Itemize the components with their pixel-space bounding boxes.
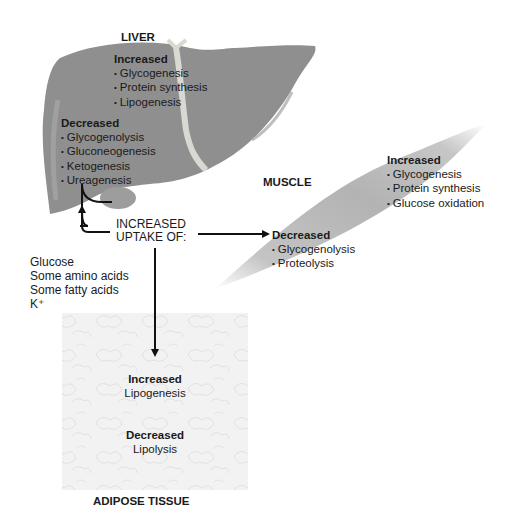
substance-item: Some fatty acids bbox=[30, 283, 129, 297]
liver-increased-list: Glycogenesis Protein synthesis Lipogenes… bbox=[114, 67, 207, 111]
list-item: Glucose oxidation bbox=[387, 197, 484, 212]
liver-decreased-group: Decreased Glycogenolysis Gluconeogenesis… bbox=[61, 117, 156, 189]
adipose-decreased-heading: Decreased bbox=[110, 429, 200, 443]
muscle-increased-list: Glycogenesis Protein synthesis Glucose o… bbox=[387, 168, 484, 212]
adipose-decreased-item: Lipolysis bbox=[110, 443, 200, 457]
adipose-decreased-group: Decreased Lipolysis bbox=[110, 429, 200, 456]
liver-decreased-list: Glycogenolysis Gluconeogenesis Ketogenes… bbox=[61, 131, 156, 189]
list-item: Proteolysis bbox=[272, 257, 355, 272]
liver-decreased-heading: Decreased bbox=[61, 117, 156, 131]
list-item: Ketogenesis bbox=[61, 160, 156, 175]
muscle-decreased-list: Glycogenolysis Proteolysis bbox=[272, 243, 355, 272]
muscle-decreased-heading: Decreased bbox=[272, 229, 355, 243]
substance-item: Some amino acids bbox=[30, 269, 129, 283]
liver-title: LIVER bbox=[121, 31, 155, 45]
substance-item: K⁺ bbox=[30, 297, 129, 311]
list-item: Ureagenesis bbox=[61, 174, 156, 189]
muscle-decreased-group: Decreased Glycogenolysis Proteolysis bbox=[272, 229, 355, 272]
adipose-increased-item: Lipogenesis bbox=[110, 387, 200, 401]
list-item: Glycogenesis bbox=[114, 67, 207, 82]
list-item: Glycogenolysis bbox=[61, 131, 156, 146]
adipose-increased-group: Increased Lipogenesis bbox=[110, 373, 200, 400]
muscle-increased-group: Increased Glycogenesis Protein synthesis… bbox=[387, 154, 484, 211]
list-item: Glycogenolysis bbox=[272, 243, 355, 258]
adipose-increased-heading: Increased bbox=[110, 373, 200, 387]
uptake-line-2: UPTAKE OF: bbox=[116, 231, 186, 244]
liver-increased-heading: Increased bbox=[114, 53, 207, 67]
muscle-title: MUSCLE bbox=[263, 176, 312, 190]
uptake-substances: Glucose Some amino acids Some fatty acid… bbox=[30, 255, 129, 311]
muscle-increased-heading: Increased bbox=[387, 154, 484, 168]
list-item: Glycogenesis bbox=[387, 168, 484, 183]
list-item: Gluconeogenesis bbox=[61, 145, 156, 160]
adipose-title: ADIPOSE TISSUE bbox=[93, 495, 190, 509]
substance-item: Glucose bbox=[30, 255, 129, 269]
list-item: Lipogenesis bbox=[114, 96, 207, 111]
list-item: Protein synthesis bbox=[114, 81, 207, 96]
list-item: Protein synthesis bbox=[387, 182, 484, 197]
uptake-label: INCREASED UPTAKE OF: bbox=[116, 218, 186, 244]
liver-increased-group: Increased Glycogenesis Protein synthesis… bbox=[114, 53, 207, 110]
